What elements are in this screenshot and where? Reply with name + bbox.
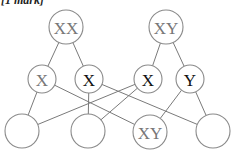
parent-node-p1: XX bbox=[49, 10, 83, 44]
offspring-node-c4 bbox=[196, 114, 230, 148]
circle-shape bbox=[71, 114, 105, 148]
parent-node-p2: XY bbox=[149, 10, 183, 44]
edge-g1-c1 bbox=[28, 92, 37, 115]
node-label: XY bbox=[138, 124, 163, 143]
edge-g4-c4 bbox=[196, 92, 206, 116]
edge-g4-c3 bbox=[160, 90, 181, 118]
edge-p1-g2 bbox=[73, 43, 83, 67]
edge-p2-g3 bbox=[153, 43, 161, 66]
gamete-node-g3: X bbox=[134, 65, 162, 93]
circle-shape bbox=[5, 114, 39, 148]
offspring-node-c1 bbox=[5, 114, 39, 148]
offspring-node-c3: XY bbox=[133, 115, 167, 149]
node-label: X bbox=[142, 71, 154, 90]
genetic-cross-diagram: XXXYXXXYXY bbox=[0, 0, 232, 154]
gamete-node-g4: Y bbox=[176, 65, 204, 93]
edge-p2-g4 bbox=[173, 42, 184, 66]
node-label: XX bbox=[54, 19, 79, 38]
gamete-node-g1: X bbox=[28, 65, 56, 93]
edge-g3-c2 bbox=[101, 88, 138, 120]
node-label: X bbox=[83, 71, 95, 90]
gamete-node-g2: X bbox=[75, 65, 103, 93]
edge-p1-g1 bbox=[48, 42, 59, 66]
nodes: XXXYXXXYXY bbox=[5, 10, 230, 149]
node-label: XY bbox=[154, 19, 179, 38]
offspring-node-c2 bbox=[71, 114, 105, 148]
circle-shape bbox=[196, 114, 230, 148]
node-label: Y bbox=[184, 71, 196, 90]
node-label: X bbox=[36, 71, 48, 90]
